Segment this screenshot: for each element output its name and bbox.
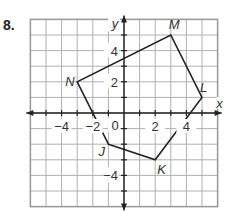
x-tick-label: 2 xyxy=(152,119,159,134)
x-tick-label: −4 xyxy=(54,119,69,134)
y-tick-label: 2 xyxy=(111,75,118,90)
origin-label: 0 xyxy=(111,118,118,133)
vertex-label-j: J xyxy=(97,144,105,159)
x-axis-label: x xyxy=(215,96,223,111)
y-tick-label: 4 xyxy=(111,44,118,59)
x-tick-label: −2 xyxy=(85,119,100,134)
vertex-label-l: L xyxy=(200,80,207,95)
vertex-label-m: M xyxy=(169,17,180,32)
vertex-label-k: K xyxy=(157,162,167,177)
x-tick-label: 4 xyxy=(183,119,190,134)
axes xyxy=(26,15,221,210)
vertex-label-n: N xyxy=(65,74,75,89)
y-tick-label: −4 xyxy=(103,168,118,183)
coordinate-graph: −4−22442−40xy JKLMN xyxy=(0,0,233,223)
